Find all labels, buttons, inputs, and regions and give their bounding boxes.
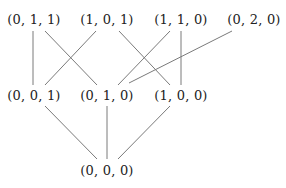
node-0-1-1: (0, 1, 1) (7, 13, 60, 26)
edge-100-000 (118, 106, 170, 159)
node-0-0-0: (0, 0, 0) (80, 164, 133, 177)
node-1-1-0: (1, 1, 0) (154, 13, 207, 26)
node-1-0-0: (1, 0, 0) (154, 89, 207, 102)
node-0-0-1: (0, 0, 1) (7, 89, 60, 102)
node-0-2-0: (0, 2, 0) (227, 13, 280, 26)
edge-001-000 (45, 106, 97, 159)
node-1-0-1: (1, 0, 1) (80, 13, 133, 26)
node-0-1-0: (0, 1, 0) (80, 89, 133, 102)
hasse-diagram: (0, 1, 1) (1, 0, 1) (1, 1, 0) (0, 2, 0) … (0, 0, 286, 188)
